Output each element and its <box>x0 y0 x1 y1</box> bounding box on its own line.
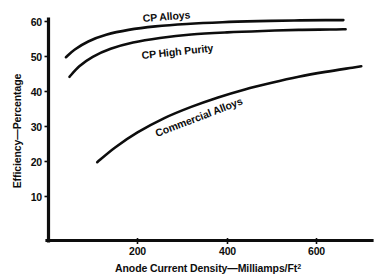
x-tick-label-400: 400 <box>219 245 236 257</box>
x-tick-label-600: 600 <box>308 245 325 257</box>
y-tick-label-40: 40 <box>31 86 43 98</box>
chart-container: 60 50 40 30 20 10 200 400 600 CP Alloys <box>0 0 378 280</box>
x-tick-label-200: 200 <box>129 245 146 257</box>
y-tick-labels: 60 50 40 30 20 10 <box>31 16 43 203</box>
y-tick-label-30: 30 <box>31 121 43 133</box>
x-axis-title: Anode Current Density—Milliamps/Ft2 <box>115 262 301 274</box>
y-tick-label-50: 50 <box>31 51 43 63</box>
y-tick-label-60: 60 <box>31 16 43 28</box>
y-axis-title: Efficiency—Percentage <box>11 73 23 188</box>
series-label-cp-alloys: CP Alloys <box>142 8 191 24</box>
series-curve-commercial-alloys <box>97 66 361 162</box>
x-tick-labels: 200 400 600 <box>129 245 325 257</box>
y-tick-label-20: 20 <box>31 156 43 168</box>
x-axis-title-main: Anode Current Density—Milliamps/Ft <box>115 262 298 274</box>
series-label-cp-high-purity: CP High Purity <box>141 42 214 61</box>
x-axis-title-superscript: 2 <box>297 263 301 270</box>
efficiency-vs-current-density-chart: 60 50 40 30 20 10 200 400 600 CP Alloys <box>0 0 378 280</box>
series-inline-labels: CP Alloys CP High Purity Commercial Allo… <box>141 8 244 139</box>
series-curves <box>66 20 361 162</box>
y-tick-label-10: 10 <box>31 191 43 203</box>
